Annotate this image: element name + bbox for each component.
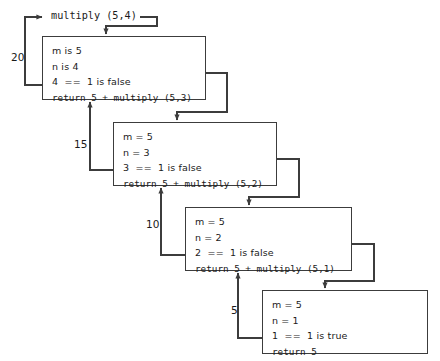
return-arrow-10 (161, 188, 185, 255)
frame-line: m = 5 (272, 297, 427, 313)
stack-frame: m = 5 n = 1 1 == 1 is true return 5 (262, 290, 428, 354)
stack-frame: m = 5 n = 3 3 == 1 is false return 5 + m… (113, 122, 277, 186)
frame-line: 1 == 1 is true (272, 328, 427, 344)
frame-line: n is 4 (52, 59, 205, 75)
frame-return-line: return 5 + multiply (5,2) (123, 176, 276, 192)
return-arrow-20 (25, 70, 42, 85)
return-value-15: 15 (74, 138, 87, 150)
call-arrow-entry (25, 17, 42, 70)
frame-return-line: return 5 (272, 344, 427, 360)
recursion-trace-diagram: multiply (5,4) 20 15 10 5 m is 5 n is 4 … (0, 0, 440, 361)
frame-line: n = 1 (272, 313, 427, 329)
frame-line: m = 5 (123, 129, 276, 145)
frame-return-line: return 5 + multiply (5,1) (195, 261, 351, 277)
return-arrow-15 (90, 102, 113, 170)
frame-return-line: return 5 + multiply (5,3) (52, 90, 205, 106)
frame-line: m = 5 (195, 214, 351, 230)
frame-line: 3 == 1 is false (123, 160, 276, 176)
return-arrow-5 (238, 273, 262, 338)
frame-line: 4 == 1 is false (52, 74, 205, 90)
root-call-label: multiply (5,4) (51, 10, 137, 21)
frame-line: n = 3 (123, 145, 276, 161)
return-value-20: 20 (11, 51, 24, 63)
stack-frame: m is 5 n is 4 4 == 1 is false return 5 +… (42, 36, 206, 100)
frame-line: m is 5 (52, 43, 205, 59)
frame-line: n = 2 (195, 230, 351, 246)
return-value-5: 5 (231, 304, 238, 316)
frame-line: 2 == 1 is false (195, 245, 351, 261)
stack-frame: m = 5 n = 2 2 == 1 is false return 5 + m… (185, 207, 352, 271)
return-value-10: 10 (146, 218, 159, 230)
